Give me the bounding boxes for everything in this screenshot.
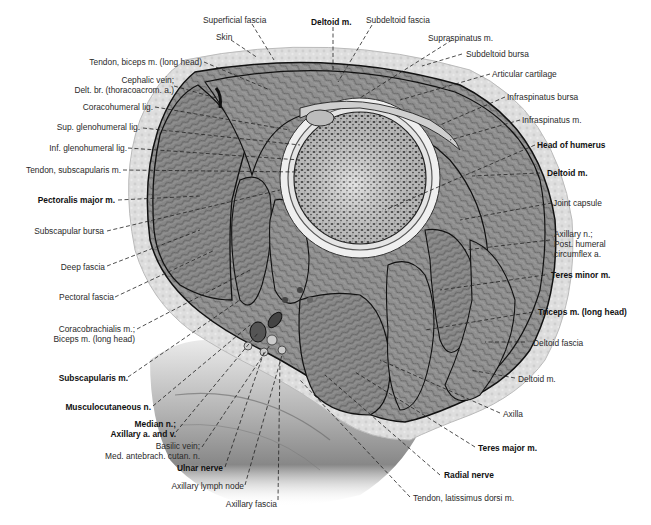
label-teres-minor: Teres minor m. <box>551 270 610 280</box>
label-coracobrachialis-line2: Biceps m. (long head) <box>54 334 135 344</box>
label-cephalic-vein: Cephalic vein; Delt. br. (thoracoacrom. … <box>74 75 174 95</box>
label-subdeltoid-fascia: Subdeltoid fascia <box>366 15 430 25</box>
label-tendon-subscapularis: Tendon, subscapularis m. <box>26 165 121 175</box>
label-coracobrachialis: Coracobrachialis m.; Biceps m. (long hea… <box>54 324 135 344</box>
label-deltoid-lower: Deltoid m. <box>518 374 556 384</box>
label-deltoid-top: Deltoid m. <box>311 17 351 27</box>
label-subscapular-bursa: Subscapular bursa <box>34 226 104 236</box>
label-head-of-humerus: Head of humerus <box>537 140 605 150</box>
label-inf-glenohumeral-lig: Inf. glenohumeral lig. <box>49 143 127 153</box>
label-axillary-n-line1: Axillary n.; <box>554 229 606 239</box>
label-joint-capsule: Joint capsule <box>553 198 602 208</box>
label-skin: Skin <box>216 32 232 42</box>
label-infraspinatus-m: Infraspinatus m. <box>522 115 582 125</box>
label-median-n-line2: Axillary a. and v. <box>111 429 176 439</box>
label-musculocutaneous-n: Musculocutaneous n. <box>65 402 151 412</box>
label-triceps-long-head: Triceps m. (long head) <box>538 307 627 317</box>
label-sup-glenohumeral-lig: Sup. glenohumeral lig. <box>57 122 140 132</box>
label-tendon-latissimus: Tendon, latissimus dorsi m. <box>413 493 514 503</box>
label-infraspinatus-bursa: Infraspinatus bursa <box>507 92 578 102</box>
label-cephalic-vein-line1: Cephalic vein; <box>74 75 174 85</box>
label-deltoid-right: Deltoid m. <box>547 168 587 178</box>
label-subscapularis-m: Subscapularis m. <box>59 373 128 383</box>
label-axillary-lymph-node: Axillary lymph node <box>171 481 244 491</box>
label-supraspinatus: Supraspinatus m. <box>428 33 493 43</box>
label-axillary-n: Axillary n.; Post. humeral circumflex a. <box>554 229 606 259</box>
biceps-tendon <box>306 110 334 126</box>
label-radial-nerve: Radial nerve <box>444 470 494 480</box>
label-deep-fascia: Deep fascia <box>61 262 105 272</box>
label-teres-major: Teres major m. <box>478 443 537 453</box>
label-basilic-vein-line2: Med. antebrach. cutan. n. <box>105 451 200 461</box>
label-deltoid-fascia: Deltoid fascia <box>533 338 583 348</box>
label-pectoral-fascia: Pectoral fascia <box>59 292 114 302</box>
label-tendon-biceps: Tendon, biceps m. (long head) <box>89 57 202 67</box>
label-axillary-n-line2: Post. humeral <box>554 239 606 249</box>
label-median-n-line1: Median n.; <box>111 419 176 429</box>
label-coracohumeral-lig: Coracohumeral lig. <box>83 102 153 112</box>
label-axilla: Axilla <box>503 409 523 419</box>
label-superficial-fascia: Superficial fascia <box>203 15 266 25</box>
label-cephalic-vein-line2: Delt. br. (thoracoacrom. a.) <box>74 85 174 95</box>
anatomical-cross-section-figure: Superficial fascia Skin Deltoid m. Subde… <box>0 0 651 525</box>
label-ulnar-nerve: Ulnar nerve <box>177 463 223 473</box>
label-pectoralis-major: Pectoralis major m. <box>38 195 115 205</box>
label-articular-cartilage: Articular cartilage <box>492 69 557 79</box>
label-axillary-n-line3: circumflex a. <box>554 249 606 259</box>
label-basilic-vein-line1: Basilic vein; <box>105 441 200 451</box>
label-basilic-vein: Basilic vein; Med. antebrach. cutan. n. <box>105 441 200 461</box>
label-subdeltoid-bursa: Subdeltoid bursa <box>466 49 529 59</box>
label-axillary-fascia: Axillary fascia <box>226 499 277 509</box>
figure-caption-clipped <box>200 513 530 521</box>
label-coracobrachialis-line1: Coracobrachialis m.; <box>54 324 135 334</box>
label-median-n: Median n.; Axillary a. and v. <box>111 419 176 439</box>
